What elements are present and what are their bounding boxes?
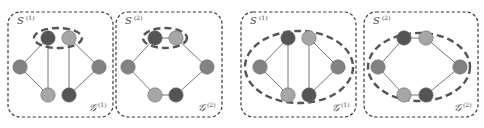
s-superscript: (1) [259,14,268,21]
graph-node-medium [453,60,467,74]
graph-node-dark [41,31,55,45]
s-label: S [373,15,380,26]
graph-node-light [169,31,183,45]
graph-node-dark [397,31,411,45]
graph-node-medium [371,60,385,74]
s-superscript: (2) [134,14,143,21]
s-label: S [250,15,257,26]
graph-node-medium [253,60,267,74]
g-label: 𝒢 [198,102,207,113]
graph-node-light [419,31,433,45]
graph-node-dark [281,31,295,45]
s-superscript: (1) [26,14,35,21]
g-superscript: (1) [341,101,350,108]
graph-node-medium [121,60,135,74]
panel-2: S(2)𝒢(2) [116,12,222,117]
graph-node-light [62,31,76,45]
graph-node-dark [169,88,183,102]
graph-node-light [148,88,162,102]
s-label: S [125,15,132,26]
s-superscript: (2) [382,14,391,21]
graph-node-light [281,88,295,102]
panel-1: S(1)𝒢(1) [8,12,113,117]
g-label: 𝒢 [89,102,98,113]
graph-node-light [41,88,55,102]
graph-node-medium [200,60,214,74]
graph-node-light [302,31,316,45]
panel-3: S(1)𝒢(1) [241,12,356,117]
graph-node-light [397,88,411,102]
graph-node-dark [419,88,433,102]
g-label: 𝒢 [454,102,463,113]
graph-diagram: S(1)𝒢(1)S(2)𝒢(2)S(1)𝒢(1)S(2)𝒢(2) [0,0,484,128]
graph-node-dark [302,88,316,102]
g-label: 𝒢 [332,102,341,113]
graph-node-dark [62,88,76,102]
graph-node-medium [13,60,27,74]
g-superscript: (2) [463,101,472,108]
panel-4: S(2)𝒢(2) [364,12,478,117]
g-superscript: (1) [98,101,107,108]
s-label: S [17,15,24,26]
graph-node-dark [148,31,162,45]
graph-node-medium [92,60,106,74]
g-superscript: (2) [207,101,216,108]
graph-node-medium [331,60,345,74]
